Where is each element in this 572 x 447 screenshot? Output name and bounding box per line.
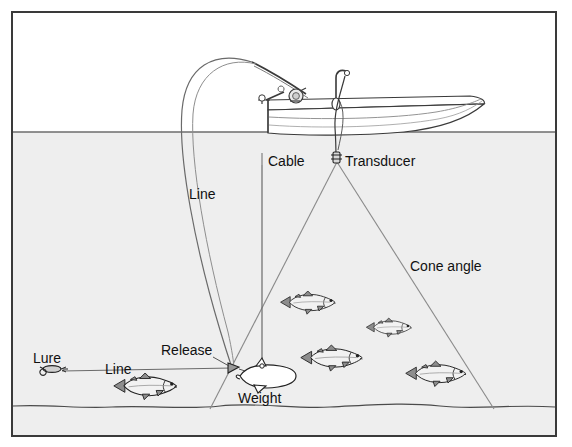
- label-cable: Cable: [268, 153, 305, 169]
- label-line-lower: Line: [105, 361, 132, 377]
- transducer: [331, 152, 342, 163]
- label-weight: Weight: [238, 390, 281, 406]
- reel-spool-inner: [293, 93, 300, 100]
- label-cone-angle: Cone angle: [410, 258, 482, 274]
- boom-pulley: [344, 70, 349, 75]
- rod-holder-ring: [259, 95, 265, 101]
- fishing-sonar-diagram: Cable Transducer Line Cone angle Lure Li…: [0, 0, 572, 447]
- diagram-canvas: Cable Transducer Line Cone angle Lure Li…: [0, 0, 572, 447]
- transducer-housing: [333, 152, 340, 163]
- weight-body: [240, 365, 296, 388]
- label-line-upper: Line: [189, 186, 216, 202]
- label-lure: Lure: [33, 350, 61, 366]
- weight-eyelet: [260, 364, 264, 368]
- label-release: Release: [161, 342, 213, 358]
- label-transducer: Transducer: [345, 153, 416, 169]
- water-region: [13, 132, 555, 435]
